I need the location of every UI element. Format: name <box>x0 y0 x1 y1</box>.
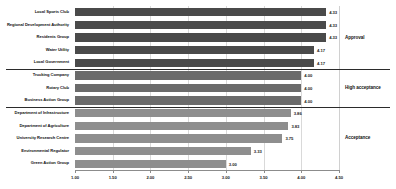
bar <box>75 59 314 67</box>
category-label: Rotary Club <box>46 82 69 95</box>
x-tick-label: 4.00 <box>297 174 305 182</box>
x-axis-tick-labels: 1.001.502.002.503.003.504.004.50 <box>0 174 396 186</box>
group-label-divider <box>339 6 340 170</box>
x-tick-label: 2.00 <box>146 174 154 182</box>
bar-row: 4.33 <box>75 6 339 19</box>
group-label: Approval <box>345 34 365 42</box>
x-axis-tick <box>113 170 114 173</box>
group-label: Acceptance <box>345 134 370 142</box>
bar <box>75 147 251 155</box>
category-label: Local Government <box>34 56 69 69</box>
category-label: University Research Centre <box>17 132 69 145</box>
x-axis-line <box>75 170 339 171</box>
group-separator <box>6 69 390 70</box>
bar-row: 3.86 <box>75 107 339 120</box>
category-axis-labels: Local Sports ClubRegional Development Au… <box>0 6 72 170</box>
x-tick-label: 4.50 <box>335 174 343 182</box>
plot-area: 4.334.334.334.174.174.004.004.003.863.83… <box>75 6 339 170</box>
bar <box>75 134 282 142</box>
bar <box>75 33 326 41</box>
bar-row: 4.00 <box>75 94 339 107</box>
category-label: Green Action Group <box>31 157 69 170</box>
bar <box>75 71 301 79</box>
bar-row: 4.17 <box>75 56 339 69</box>
x-axis-tick <box>75 170 76 173</box>
bar <box>75 8 326 16</box>
group-label: High acceptance <box>345 84 381 92</box>
bar-rows: 4.334.334.334.174.174.004.004.003.863.83… <box>75 6 339 170</box>
bar-row: 4.33 <box>75 31 339 44</box>
x-axis-tick <box>188 170 189 173</box>
x-axis-tick <box>226 170 227 173</box>
x-tick-label: 1.50 <box>109 174 117 182</box>
bar-row: 3.75 <box>75 132 339 145</box>
bar <box>75 46 314 54</box>
group-separator <box>6 107 390 108</box>
category-label: Environmental Regulator <box>21 145 69 158</box>
bar <box>75 109 291 117</box>
x-tick-label: 3.50 <box>260 174 268 182</box>
category-label: Trucking Company <box>33 69 69 82</box>
bar <box>75 96 301 104</box>
bar-row: 3.33 <box>75 145 339 158</box>
bar-row: 3.83 <box>75 120 339 133</box>
bar <box>75 84 301 92</box>
x-axis-tick <box>264 170 265 173</box>
x-axis-tick <box>301 170 302 173</box>
category-label: Business Action Group <box>25 94 70 107</box>
bar <box>75 160 226 168</box>
x-axis-tick <box>150 170 151 173</box>
x-tick-label: 3.00 <box>222 174 230 182</box>
bar-row: 4.00 <box>75 82 339 95</box>
category-label: Department of Infrastructure <box>15 107 69 120</box>
category-label: Water Utility <box>46 44 69 57</box>
bar-row: 4.33 <box>75 19 339 32</box>
bar-row: 3.00 <box>75 157 339 170</box>
bar <box>75 122 288 130</box>
category-label: Local Sports Club <box>35 6 69 19</box>
x-tick-label: 2.50 <box>184 174 192 182</box>
category-label: Residents Group <box>37 31 69 44</box>
bar-row: 4.17 <box>75 44 339 57</box>
category-label: Department of Agriculture <box>19 120 69 133</box>
x-tick-label: 1.00 <box>71 174 79 182</box>
bar-row: 4.00 <box>75 69 339 82</box>
category-label: Regional Development Authority <box>7 19 69 32</box>
x-axis-tick <box>339 170 340 173</box>
bar <box>75 21 326 29</box>
bar-chart: Local Sports ClubRegional Development Au… <box>0 0 396 189</box>
